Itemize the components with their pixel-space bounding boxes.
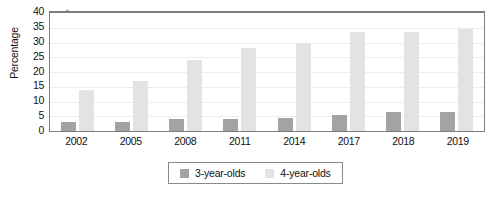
bar-chart-figure: Percentage 0510152025303540 200220052008… [0, 0, 493, 201]
y-tick-label: 40 [20, 6, 44, 16]
y-tick-label: 5 [20, 110, 44, 120]
bar-group [50, 13, 104, 131]
bar-4-year-olds-2014 [296, 43, 311, 132]
x-axis-tick-labels: 20022005200820112014201720182019 [49, 135, 485, 147]
bar-group [104, 13, 158, 131]
bar-3-year-olds-2018 [386, 112, 401, 131]
bar-3-year-olds-2005 [115, 122, 130, 131]
bar-3-year-olds-2002 [61, 122, 76, 131]
y-tick-label: 15 [20, 80, 44, 90]
legend-entry-3-year-olds[interactable]: 3-year-olds [180, 167, 245, 179]
x-tick-label: 2019 [431, 135, 486, 147]
bar-3-year-olds-2014 [278, 118, 293, 131]
chart-legend: 3-year-olds4-year-olds [168, 162, 343, 184]
bar-4-year-olds-2019 [458, 29, 473, 131]
bar-3-year-olds-2008 [169, 119, 184, 131]
bars-layer [50, 13, 484, 131]
x-tick-label: 2014 [267, 135, 322, 147]
bar-group [159, 13, 213, 131]
x-tick-label: 2008 [158, 135, 213, 147]
x-tick-label: 2018 [376, 135, 431, 147]
legend-swatch-icon [180, 169, 189, 178]
bar-3-year-olds-2011 [223, 119, 238, 131]
bar-3-year-olds-2017 [332, 115, 347, 131]
x-tick-label: 2005 [104, 135, 159, 147]
y-tick-label: 10 [20, 95, 44, 105]
x-tick-label: 2002 [49, 135, 104, 147]
y-tick-label: 30 [20, 36, 44, 46]
x-tick-label: 2017 [322, 135, 377, 147]
bar-3-year-olds-2019 [440, 112, 455, 131]
bar-4-year-olds-2011 [241, 48, 256, 131]
legend-swatch-icon [265, 169, 274, 178]
plot-area [49, 11, 485, 132]
bar-group [267, 13, 321, 131]
y-axis-tick-labels: 0510152025303540 [20, 6, 44, 132]
y-axis-title: Percentage [8, 15, 20, 91]
bar-group [321, 13, 375, 131]
y-tick-label: 25 [20, 51, 44, 61]
bar-group [213, 13, 267, 131]
y-tick-label: 0 [20, 125, 44, 135]
bar-4-year-olds-2008 [187, 60, 202, 131]
bar-group [430, 13, 484, 131]
legend-label: 3-year-olds [195, 167, 245, 179]
bar-group [376, 13, 430, 131]
legend-label: 4-year-olds [280, 167, 330, 179]
bar-4-year-olds-2018 [404, 32, 419, 131]
y-tick-label: 35 [20, 21, 44, 31]
legend-entry-4-year-olds[interactable]: 4-year-olds [265, 167, 330, 179]
y-tick-label: 20 [20, 66, 44, 76]
bar-4-year-olds-2005 [133, 81, 148, 131]
bar-4-year-olds-2017 [350, 32, 365, 131]
bar-4-year-olds-2002 [79, 90, 94, 131]
x-tick-label: 2011 [213, 135, 268, 147]
